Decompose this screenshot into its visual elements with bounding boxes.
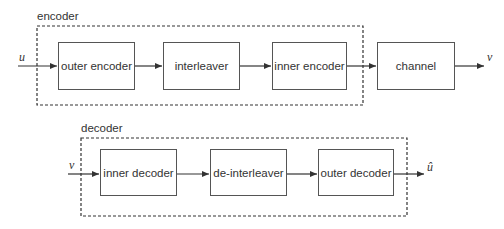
decoder-input-label: v (69, 158, 74, 173)
outer-decoder-block: outer decoder (318, 149, 394, 196)
outer-encoder-label: outer encoder (61, 60, 132, 72)
de-interleaver-block: de-interleaver (210, 149, 287, 196)
inner-encoder-block: inner encoder (272, 42, 347, 90)
channel-label: channel (396, 60, 436, 72)
encoder-group-label: encoder (37, 10, 79, 22)
outer-encoder-block: outer encoder (58, 42, 135, 90)
interleaver-block: interleaver (163, 42, 240, 90)
interleaver-label: interleaver (175, 60, 229, 72)
outer-decoder-label: outer decoder (321, 167, 392, 179)
inner-decoder-label: inner decoder (103, 167, 173, 179)
inner-encoder-label: inner encoder (274, 60, 344, 72)
decoder-group-label: decoder (81, 122, 123, 134)
decoder-output-label: û (427, 160, 433, 175)
channel-block: channel (377, 42, 455, 90)
inner-decoder-block: inner decoder (100, 149, 177, 196)
channel-output-label: v (487, 50, 492, 65)
encoder-input-label: u (19, 50, 25, 65)
de-interleaver-label: de-interleaver (213, 167, 283, 179)
